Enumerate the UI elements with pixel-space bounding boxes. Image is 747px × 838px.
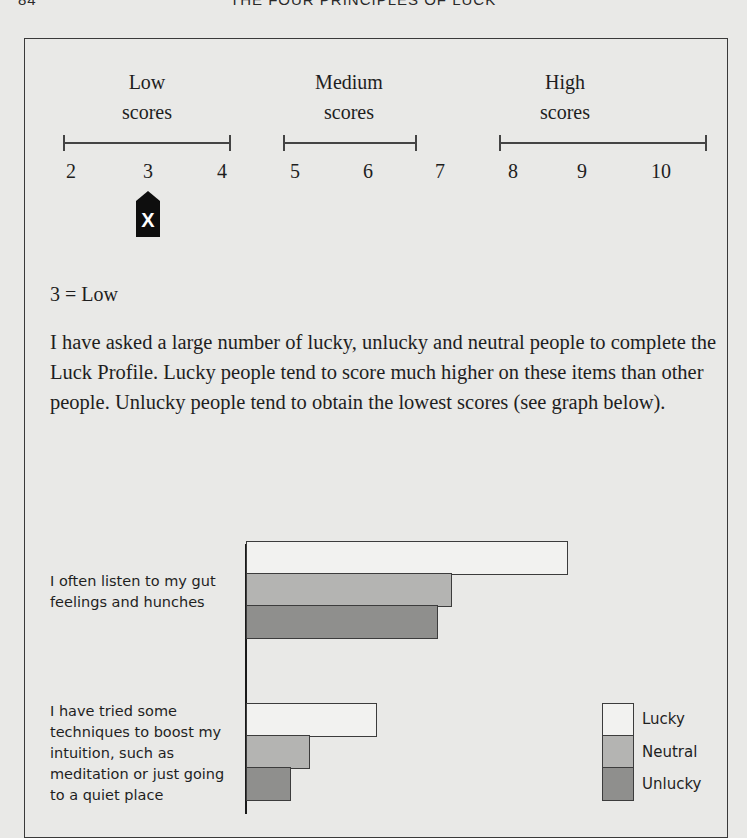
bar-item2-lucky: [246, 703, 377, 737]
scale-number: 4: [217, 160, 227, 183]
scale-number: 6: [363, 160, 373, 183]
range-label-line: scores: [269, 97, 429, 127]
chart-item-label: I have tried some techniques to boost my…: [50, 701, 240, 806]
bar-item1-unlucky: [246, 605, 438, 639]
legend-swatch-neutral: [602, 735, 634, 769]
range-label-medium: Medium scores: [269, 67, 429, 127]
bar-item1-neutral: [246, 573, 452, 607]
range-label-high: High scores: [485, 67, 645, 127]
scale-number: 2: [66, 160, 76, 183]
score-result: 3 = Low: [50, 283, 118, 306]
scale-number: 10: [651, 160, 671, 183]
running-head: 84 THE FOUR PRINCIPLES OF LUCK: [0, 0, 747, 7]
bar-item1-lucky: [246, 541, 568, 575]
range-label-line: scores: [67, 97, 227, 127]
range-label-line: scores: [485, 97, 645, 127]
scale-number: 3: [143, 160, 153, 183]
scale-number: 7: [435, 160, 445, 183]
range-label-line: Low: [67, 67, 227, 97]
scale-number: 5: [290, 160, 300, 183]
bar-item2-unlucky: [246, 767, 291, 801]
legend-swatch-lucky: [602, 703, 634, 737]
chapter-title: THE FOUR PRINCIPLES OF LUCK: [230, 0, 496, 8]
legend-label-neutral: Neutral: [642, 743, 697, 761]
scale-segment-high: [499, 142, 707, 144]
legend-label-lucky: Lucky: [642, 710, 685, 728]
score-marker: X: [136, 191, 160, 237]
chart-item-label: I often listen to my gut feelings and hu…: [50, 571, 225, 613]
marker-x-glyph: X: [136, 209, 160, 232]
scale-segment-medium: [283, 142, 417, 144]
scale-number: 9: [577, 160, 587, 183]
page-number: 84: [18, 0, 37, 8]
range-label-line: Medium: [269, 67, 429, 97]
scale-segment-low: [63, 142, 231, 144]
legend-swatch-unlucky: [602, 767, 634, 801]
range-label-low: Low scores: [67, 67, 227, 127]
range-label-line: High: [485, 67, 645, 97]
legend-label-unlucky: Unlucky: [642, 775, 701, 793]
body-paragraph: I have asked a large number of lucky, un…: [50, 327, 720, 417]
bar-item2-neutral: [246, 735, 310, 769]
scale-number: 8: [508, 160, 518, 183]
